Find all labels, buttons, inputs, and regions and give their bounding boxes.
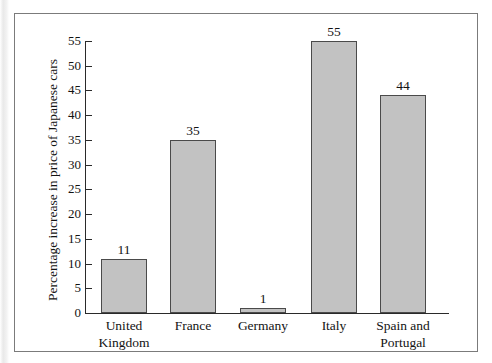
y-axis-tick-mark (86, 313, 92, 314)
bar (311, 41, 357, 313)
bar-value-label: 55 (297, 24, 371, 39)
y-axis-tick-mark (86, 115, 92, 116)
y-axis-tick-mark (86, 41, 92, 42)
y-axis-tick-label: 35 (57, 133, 81, 146)
x-axis-line (85, 313, 449, 314)
y-axis-tick-label-text: 50 (57, 59, 81, 72)
x-axis-category-label: Spain andPortugal (357, 317, 449, 351)
y-axis-tick-label: 10 (57, 257, 81, 270)
y-axis-tick-label: 5 (57, 281, 81, 294)
bar-value-label: 1 (226, 291, 300, 306)
bar (380, 95, 426, 313)
y-axis-tick-mark (86, 214, 92, 215)
y-axis-tick-label: 50 (57, 59, 81, 72)
bar-value-label: 35 (156, 123, 230, 138)
y-axis-tick-label-text: 20 (57, 207, 81, 220)
y-axis-tick-label: 45 (57, 83, 81, 96)
y-axis-tick-label-text: 30 (57, 158, 81, 171)
y-axis-tick-label: 20 (57, 207, 81, 220)
y-axis-tick-label-text: 55 (57, 34, 81, 47)
y-axis-tick-label: 40 (57, 108, 81, 121)
y-axis-tick-label: 55 (57, 34, 81, 47)
x-axis-category-label-line: Portugal (357, 334, 449, 351)
bar (101, 259, 147, 313)
bar-value-label: 44 (366, 78, 440, 93)
y-axis-tick-mark (86, 189, 92, 190)
y-axis-line (85, 41, 86, 314)
y-axis-tick-mark (86, 140, 92, 141)
y-axis-tick-label: 15 (57, 232, 81, 245)
y-axis-tick-label-text: 40 (57, 108, 81, 121)
y-axis-tick-label: 30 (57, 158, 81, 171)
y-axis-tick-label-text: 10 (57, 257, 81, 270)
y-axis-tick-label-text: 45 (57, 83, 81, 96)
bar-chart: Percentage increase in price of Japanese… (0, 0, 492, 363)
bar (240, 308, 286, 313)
y-axis-tick-mark (86, 90, 92, 91)
y-axis-tick-mark (86, 264, 92, 265)
y-axis-tick-mark (86, 288, 92, 289)
x-axis-category-label-line: Kingdom (78, 334, 170, 351)
y-axis-tick-label-text: 25 (57, 182, 81, 195)
y-axis-tick-mark (86, 66, 92, 67)
bar (170, 140, 216, 313)
bar-value-label: 11 (87, 242, 161, 257)
y-axis-tick-label: 25 (57, 182, 81, 195)
y-axis-tick-label-text: 5 (57, 281, 81, 294)
y-axis-tick-mark (86, 239, 92, 240)
y-axis-tick-label-text: 15 (57, 232, 81, 245)
y-axis-tick-label-text: 35 (57, 133, 81, 146)
y-axis-tick-mark (86, 165, 92, 166)
x-axis-category-label-line: Spain and (357, 317, 449, 334)
